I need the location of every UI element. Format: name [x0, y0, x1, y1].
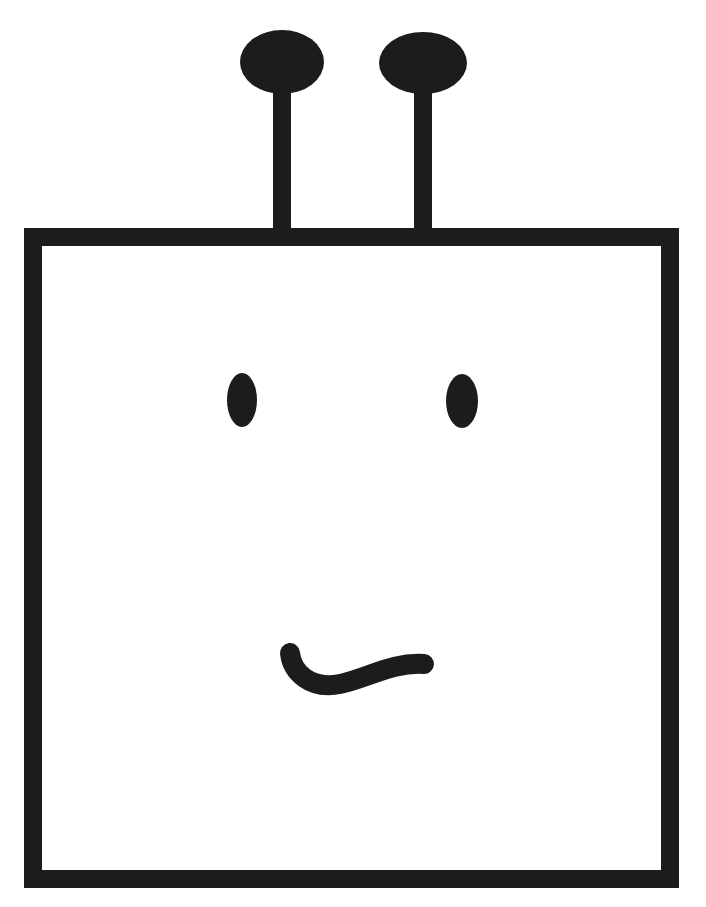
robot-head-square [33, 237, 670, 879]
antenna-bulb [240, 30, 324, 94]
left-eye [227, 373, 257, 427]
antenna-stem [414, 90, 432, 233]
antennae [240, 30, 467, 233]
eyes [227, 373, 478, 428]
robot-face-drawing [0, 0, 706, 907]
right-antenna [379, 32, 467, 233]
left-antenna [240, 30, 324, 233]
mouth-icon [290, 653, 424, 685]
antenna-stem [273, 88, 291, 233]
right-eye [446, 374, 478, 428]
antenna-bulb [379, 32, 467, 94]
